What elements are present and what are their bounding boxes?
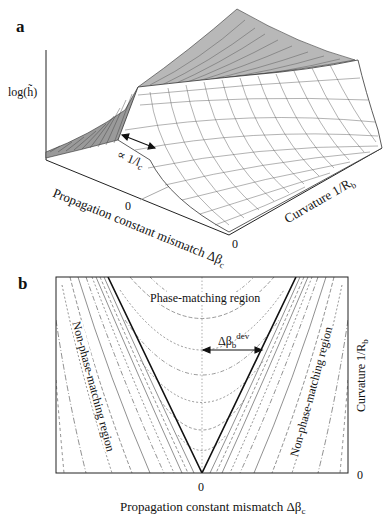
- panel-b-contour-plot: [0, 0, 392, 524]
- phase-matching-region-label: Phase-matching region: [150, 292, 260, 304]
- panel-b-y-axis-label: Curvature 1/Rb: [355, 339, 370, 412]
- panel-b-y-zero: 0: [357, 469, 363, 481]
- dev-label: Δβbdev: [218, 332, 249, 350]
- panel-b-x-axis-label: Propagation constant mismatch Δβc: [120, 500, 305, 516]
- panel-b-x-zero: 0: [198, 481, 204, 493]
